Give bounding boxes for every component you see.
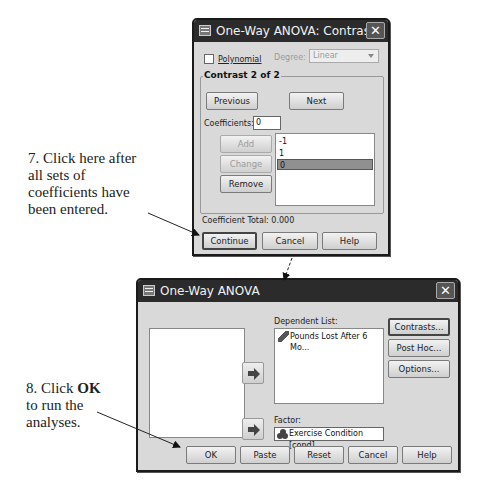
callout-arrows — [0, 0, 479, 490]
flow-arrow — [284, 258, 292, 280]
step8-arrow — [97, 412, 180, 447]
step7-arrow — [148, 213, 199, 235]
